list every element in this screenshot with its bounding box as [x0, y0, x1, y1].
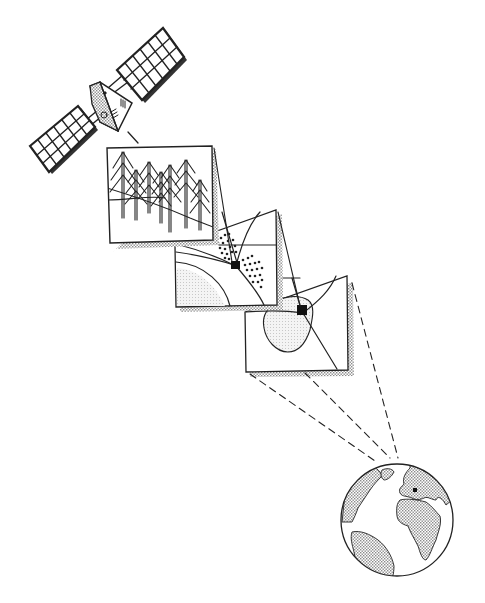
solar-panel-right	[117, 28, 187, 103]
location-marker	[413, 488, 417, 492]
globe	[341, 462, 453, 584]
sensor-beam-line	[128, 132, 138, 143]
satellite-body	[90, 82, 132, 131]
solar-panel-left	[30, 106, 98, 174]
remote-sensing-diagram	[0, 0, 485, 603]
location-marker	[297, 305, 307, 315]
panel-forest	[107, 146, 219, 252]
diagram-svg	[0, 0, 485, 603]
